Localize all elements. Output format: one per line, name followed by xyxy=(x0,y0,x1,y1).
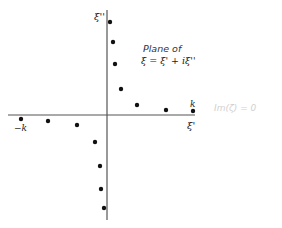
complex-plane-diagram: ξ'' ξ' k −k Plane of ξ = ξ' + iξ'' Im(ζ)… xyxy=(0,0,282,228)
data-point xyxy=(111,40,115,44)
data-point xyxy=(108,20,112,24)
faint-annotation: Im(ζ) = 0 xyxy=(214,103,257,113)
data-point xyxy=(93,140,97,144)
k-label: k xyxy=(190,99,195,109)
data-point xyxy=(119,87,123,91)
data-point xyxy=(19,117,23,121)
data-point xyxy=(102,206,106,210)
data-point xyxy=(46,119,50,123)
plane-title-line2: ξ = ξ' + iξ'' xyxy=(141,55,196,66)
imaginary-axis-label: ξ'' xyxy=(94,11,105,22)
data-point xyxy=(191,109,195,113)
data-point xyxy=(75,123,79,127)
real-axis-label: ξ' xyxy=(187,120,195,131)
data-point xyxy=(99,187,103,191)
plane-title-line1: Plane of xyxy=(143,43,183,54)
data-point xyxy=(113,62,117,66)
data-point xyxy=(135,103,139,107)
data-point xyxy=(98,164,102,168)
data-point xyxy=(164,108,168,112)
minus-k-label: −k xyxy=(14,123,27,133)
